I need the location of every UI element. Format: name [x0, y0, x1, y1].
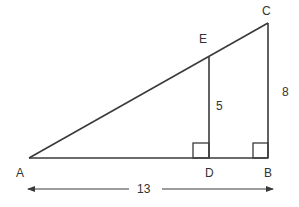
point-label-c: C: [262, 4, 271, 18]
measurement-ab: 13: [137, 182, 151, 196]
point-label-e: E: [199, 32, 207, 46]
point-label-a: A: [16, 166, 24, 180]
right-angle-marker-b: [253, 143, 268, 158]
point-label-d: D: [205, 166, 214, 180]
geometry-diagram: C E A D B 5 8 13: [0, 0, 299, 207]
point-label-b: B: [264, 166, 272, 180]
segment-ac: [29, 23, 268, 158]
measurement-bc: 8: [282, 85, 289, 99]
measurement-ed: 5: [216, 99, 223, 113]
right-angle-marker-d: [193, 143, 209, 158]
